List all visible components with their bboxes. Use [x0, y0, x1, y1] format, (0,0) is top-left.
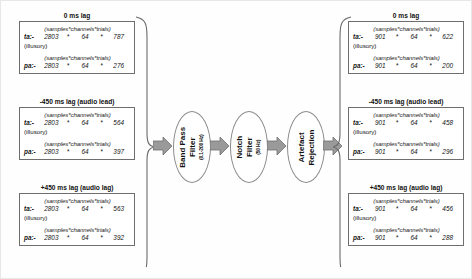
left-group-0ms: 0 ms lag (samples*channels*trials) ta:- …: [19, 12, 135, 74]
star-icon: *: [426, 148, 435, 157]
pa-label: pa:-: [353, 148, 368, 157]
ta-trials: 787: [106, 33, 131, 42]
pa-label: pa:-: [353, 234, 368, 243]
stage-label: Notch Filter (50 Hz): [235, 136, 264, 159]
star-icon: *: [393, 205, 402, 214]
star-icon: *: [393, 148, 402, 157]
star-icon: *: [97, 205, 106, 214]
right-group-plus450ms: +450 ms lag (audio lag) (samples*channel…: [348, 184, 464, 246]
columns-header: (samples*channels*trials): [353, 25, 460, 33]
columns-header: (samples*channels*trials): [353, 140, 460, 148]
columns-header: (samples*channels*trials): [353, 226, 460, 234]
group-title: -450 ms lag (audio lead): [348, 98, 464, 106]
star-icon: *: [64, 119, 73, 128]
ta-channels: 64: [73, 33, 98, 42]
stage-line2: Filter: [244, 137, 253, 157]
columns-header: (samples*channels*trials): [24, 197, 131, 205]
ta-label: ta:-: [353, 205, 368, 214]
star-icon: *: [393, 62, 402, 71]
ta-samples: 901: [368, 33, 393, 42]
pa-trials: 397: [106, 148, 131, 157]
group-title: +450 ms lag (audio lag): [348, 184, 464, 192]
ta-label: ta:-: [24, 119, 39, 128]
ta-samples: 2803: [39, 205, 64, 214]
star-icon: *: [64, 205, 73, 214]
right-group-0ms: 0 ms lag (samples*channels*trials) ta:- …: [348, 12, 464, 74]
star-icon: *: [426, 33, 435, 42]
illusory-note: (illusory): [24, 214, 131, 222]
pa-label: pa:-: [24, 234, 39, 243]
star-icon: *: [64, 62, 73, 71]
group-title: 0 ms lag: [19, 12, 135, 20]
pa-channels: 64: [402, 62, 427, 71]
data-box: (samples*channels*trials) ta:- 901 * 64 …: [348, 21, 464, 74]
ta-channels: 64: [402, 205, 427, 214]
pa-channels: 64: [402, 234, 427, 243]
star-icon: *: [393, 234, 402, 243]
columns-header: (samples*channels*trials): [353, 111, 460, 119]
pa-trials: 276: [106, 62, 131, 71]
star-icon: *: [64, 148, 73, 157]
arrow-to-artefact-rejection: [267, 136, 287, 156]
data-box: (samples*channels*trials) ta:- 2803 * 64…: [19, 193, 135, 246]
pa-samples: 901: [368, 148, 393, 157]
star-icon: *: [393, 33, 402, 42]
illusory-note: (illusory): [353, 128, 460, 136]
pa-samples: 901: [368, 234, 393, 243]
ta-samples: 2803: [39, 119, 64, 128]
data-box: (samples*channels*trials) ta:- 2803 * 64…: [19, 21, 135, 74]
columns-header: (samples*channels*trials): [24, 111, 131, 119]
pa-trials: 200: [435, 62, 460, 71]
preprocessing-pipeline-figure: 0 ms lag (samples*channels*trials) ta:- …: [0, 0, 472, 279]
stage-line1: Notch: [235, 136, 244, 159]
arrow-to-notch-filter: [210, 136, 230, 156]
ta-samples: 901: [368, 119, 393, 128]
star-icon: *: [426, 62, 435, 71]
pa-label: pa:-: [353, 62, 368, 71]
columns-header: (samples*channels*trials): [24, 140, 131, 148]
ta-channels: 64: [73, 205, 98, 214]
group-title: 0 ms lag: [348, 12, 464, 20]
pa-trials: 288: [435, 234, 460, 243]
ta-trials: 563: [106, 205, 131, 214]
columns-header: (samples*channels*trials): [24, 226, 131, 234]
data-box: (samples*channels*trials) ta:- 2803 * 64…: [19, 107, 135, 160]
pa-channels: 64: [73, 148, 98, 157]
arrow-to-band-pass-filter: [153, 136, 173, 156]
stage-line2: Rejection: [306, 129, 315, 165]
ta-samples: 2803: [39, 33, 64, 42]
ta-row: ta:- 901 * 64 * 622: [353, 33, 460, 42]
star-icon: *: [64, 33, 73, 42]
columns-header: (samples*channels*trials): [353, 197, 460, 205]
columns-header: (samples*channels*trials): [24, 25, 131, 33]
ta-channels: 64: [402, 33, 427, 42]
pa-label: pa:-: [24, 148, 39, 157]
group-title: +450 ms lag (audio lag): [19, 184, 135, 192]
ta-label: ta:-: [353, 33, 368, 42]
group-title: -450 ms lag (audio lead): [19, 98, 135, 106]
pa-row: pa:- 2803 * 64 * 397: [24, 148, 131, 157]
pa-row: pa:- 901 * 64 * 288: [353, 234, 460, 243]
pa-row: pa:- 901 * 64 * 296: [353, 148, 460, 157]
pa-row: pa:- 2803 * 64 * 392: [24, 234, 131, 243]
stage-label: Band Pass Filter (0.1-200 Hz): [178, 127, 207, 168]
star-icon: *: [97, 62, 106, 71]
pa-trials: 392: [106, 234, 131, 243]
data-box: (samples*channels*trials) ta:- 901 * 64 …: [348, 193, 464, 246]
stage-band-pass-filter: Band Pass Filter (0.1-200 Hz): [173, 111, 211, 183]
ta-row: ta:- 2803 * 64 * 563: [24, 205, 131, 214]
star-icon: *: [426, 234, 435, 243]
ta-trials: 456: [435, 205, 460, 214]
pa-channels: 64: [402, 148, 427, 157]
stage-param: (0.1-200 Hz): [197, 127, 207, 168]
illusory-note: (illusory): [353, 42, 460, 50]
ta-trials: 458: [435, 119, 460, 128]
pa-trials: 296: [435, 148, 460, 157]
ta-row: ta:- 901 * 64 * 456: [353, 205, 460, 214]
stage-line1: Artefact: [297, 132, 306, 162]
illusory-note: (illusory): [24, 128, 131, 136]
ta-label: ta:-: [353, 119, 368, 128]
left-group-minus450ms: -450 ms lag (audio lead) (samples*channe…: [19, 98, 135, 160]
pa-samples: 2803: [39, 62, 64, 71]
star-icon: *: [64, 234, 73, 243]
